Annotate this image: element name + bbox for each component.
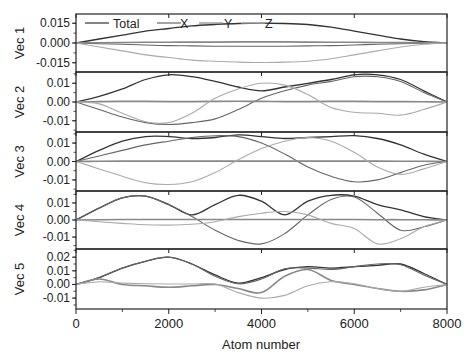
legend: TotalXYZ	[85, 17, 273, 31]
series-total-line	[76, 257, 447, 284]
stacked-line-chart: 0.0150.000-0.015Vec 10.010.00-0.01Vec 20…	[0, 0, 476, 362]
panel-3: 0.010.00-0.01Vec 3	[12, 132, 447, 191]
y-tick-label: 0.000	[40, 36, 70, 50]
y-tick-label: 0.01	[47, 136, 71, 150]
y-axis-label-vec5: Vec 5	[12, 263, 27, 296]
x-tick-label: 8000	[433, 316, 462, 331]
y-tick-label: -0.01	[43, 230, 71, 244]
legend-label: Z	[265, 17, 273, 31]
series-y-line	[76, 220, 447, 221]
panel-2: 0.010.00-0.01Vec 2	[12, 72, 447, 132]
legend-label: Y	[224, 17, 233, 31]
x-axis: 02000400060008000	[72, 309, 461, 331]
panel-4: 0.010.00-0.01Vec 4	[12, 191, 447, 249]
series-y-line	[76, 101, 447, 102]
series-z-line	[76, 211, 447, 244]
panels-group: 0.0150.000-0.015Vec 10.010.00-0.01Vec 20…	[12, 14, 447, 309]
y-axis-label-vec3: Vec 3	[12, 145, 27, 178]
x-tick-label: 6000	[340, 316, 369, 331]
y-tick-label: -0.015	[36, 56, 70, 70]
x-tick-label: 4000	[247, 316, 276, 331]
series-total-line	[76, 195, 447, 220]
y-tick-label: 0.02	[47, 250, 71, 264]
legend-label: Total	[113, 17, 139, 31]
series-x-line	[76, 43, 447, 46]
y-tick-label: -0.01	[43, 291, 71, 305]
y-tick-label: 0.00	[47, 277, 71, 291]
panel-5: 0.020.010.00-0.01Vec 5	[12, 249, 447, 309]
series-y-line	[76, 269, 447, 293]
series-x-line	[76, 257, 447, 284]
y-axis-label-vec4: Vec 4	[12, 204, 27, 237]
y-tick-label: -0.01	[43, 173, 71, 187]
y-tick-label: 0.015	[40, 16, 70, 30]
y-axis-label-vec2: Vec 2	[12, 86, 27, 119]
x-tick-label: 2000	[154, 316, 183, 331]
y-tick-label: 0.00	[47, 95, 71, 109]
y-tick-label: 0.00	[47, 213, 71, 227]
legend-label: X	[180, 17, 189, 31]
legend-item-y: Y	[199, 17, 233, 31]
y-tick-label: 0.00	[47, 155, 71, 169]
y-tick-label: 0.01	[47, 76, 71, 90]
y-axis-label-vec1: Vec 1	[12, 27, 27, 60]
y-tick-label: 0.01	[47, 264, 71, 278]
legend-item-total: Total	[85, 17, 139, 31]
series-z-line	[76, 83, 447, 123]
x-axis-label: Atom number	[222, 337, 301, 352]
legend-item-z: Z	[241, 17, 273, 31]
y-tick-label: -0.01	[43, 114, 71, 128]
series-y-line	[76, 42, 447, 43]
x-tick-label: 0	[72, 316, 79, 331]
y-tick-label: 0.01	[47, 196, 71, 210]
